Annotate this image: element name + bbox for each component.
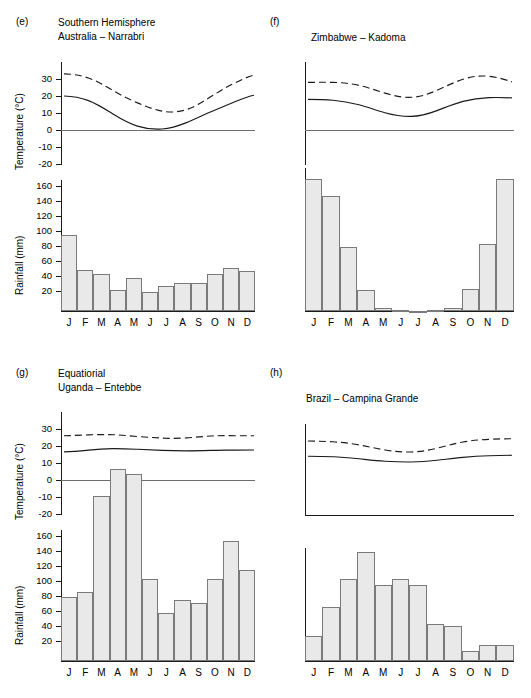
bar-rainfall bbox=[375, 308, 392, 311]
bar-rainfall bbox=[158, 613, 174, 661]
rain-tick-80: 80 bbox=[30, 241, 52, 251]
month-label: O bbox=[207, 317, 223, 328]
month-label: J bbox=[409, 317, 426, 328]
bar-rainfall bbox=[340, 247, 357, 312]
month-label: M bbox=[375, 667, 392, 678]
month-label: N bbox=[223, 317, 239, 328]
bar-rainfall bbox=[77, 270, 93, 311]
bar-rainfall bbox=[191, 283, 207, 311]
panel-e-rain-baseline bbox=[61, 311, 255, 312]
curve-max-temperature bbox=[64, 435, 254, 439]
month-label: A bbox=[357, 317, 374, 328]
rain-tick-60: 60 bbox=[30, 256, 52, 266]
month-label: O bbox=[462, 667, 479, 678]
rain-tick-20: 20 bbox=[30, 286, 52, 296]
rain-tick-160: 160 bbox=[30, 531, 52, 541]
month-label: S bbox=[444, 667, 461, 678]
month-label: F bbox=[322, 317, 339, 328]
rain-tick-160: 160 bbox=[30, 181, 52, 191]
month-label: M bbox=[93, 667, 109, 678]
bar-rainfall bbox=[93, 496, 109, 661]
rain-tick-120: 120 bbox=[30, 211, 52, 221]
bar-rainfall bbox=[191, 603, 207, 662]
bar-rainfall bbox=[61, 597, 77, 661]
bar-rainfall bbox=[340, 579, 357, 662]
rain-tick-120: 120 bbox=[30, 561, 52, 571]
rain-tick-60: 60 bbox=[30, 606, 52, 616]
month-label: S bbox=[191, 317, 207, 328]
month-label: J bbox=[61, 317, 77, 328]
month-label: N bbox=[479, 667, 496, 678]
month-label: N bbox=[479, 317, 496, 328]
month-label: J bbox=[409, 667, 426, 678]
panel-h: (h) Brazil – Campina Grande J F M A M J … bbox=[266, 348, 531, 698]
bar-rainfall bbox=[427, 624, 444, 662]
panel-e-rain-axis-label: Rainfall (mm) bbox=[14, 236, 25, 295]
month-label: J bbox=[305, 667, 322, 678]
bar-rainfall bbox=[462, 651, 479, 662]
month-label: A bbox=[174, 317, 190, 328]
rain-tick-20: 20 bbox=[30, 636, 52, 646]
bar-rainfall bbox=[158, 286, 174, 312]
rain-tick-40: 40 bbox=[30, 271, 52, 281]
bar-rainfall bbox=[462, 289, 479, 311]
bar-rainfall bbox=[392, 579, 409, 662]
month-label: M bbox=[340, 317, 357, 328]
bar-rainfall bbox=[174, 600, 190, 662]
month-label: O bbox=[207, 667, 223, 678]
month-label: A bbox=[174, 667, 190, 678]
rain-tick-140: 140 bbox=[30, 546, 52, 556]
bar-rainfall bbox=[126, 278, 142, 311]
month-label: A bbox=[427, 667, 444, 678]
bar-rainfall bbox=[496, 179, 513, 311]
panel-h-rain-baseline bbox=[305, 661, 514, 662]
bar-rainfall bbox=[77, 592, 93, 661]
month-label: M bbox=[93, 317, 109, 328]
bar-rainfall bbox=[444, 626, 461, 661]
bar-rainfall bbox=[409, 585, 426, 662]
bar-rainfall bbox=[142, 579, 158, 661]
month-label: A bbox=[110, 317, 126, 328]
bar-rainfall bbox=[207, 579, 223, 661]
bar-rainfall bbox=[239, 271, 255, 312]
month-label: M bbox=[375, 317, 392, 328]
bar-rainfall bbox=[126, 474, 142, 662]
bar-rainfall bbox=[427, 310, 444, 312]
bar-rainfall bbox=[444, 308, 461, 311]
month-label: O bbox=[462, 317, 479, 328]
month-label: S bbox=[191, 667, 207, 678]
curve-max-temperature bbox=[308, 439, 512, 452]
month-label: A bbox=[357, 667, 374, 678]
bar-rainfall bbox=[223, 268, 239, 311]
curve-min-temperature bbox=[64, 95, 254, 129]
month-label: J bbox=[142, 667, 158, 678]
bar-rainfall bbox=[479, 244, 496, 311]
month-label: D bbox=[239, 317, 255, 328]
month-label: J bbox=[158, 317, 174, 328]
bar-rainfall bbox=[207, 274, 223, 312]
month-label: J bbox=[392, 317, 409, 328]
bar-rainfall bbox=[357, 290, 374, 311]
bar-rainfall bbox=[357, 552, 374, 662]
month-label: M bbox=[126, 317, 142, 328]
month-label: F bbox=[322, 667, 339, 678]
bar-rainfall bbox=[322, 607, 339, 661]
month-label: S bbox=[444, 317, 461, 328]
rain-tick-140: 140 bbox=[30, 196, 52, 206]
bar-rainfall bbox=[305, 179, 322, 311]
bar-rainfall bbox=[479, 645, 496, 661]
rain-tick-100: 100 bbox=[30, 226, 52, 236]
rain-tick-40: 40 bbox=[30, 621, 52, 631]
panel-g-rain-axis-label: Rainfall (mm) bbox=[14, 586, 25, 645]
bar-rainfall bbox=[496, 645, 513, 661]
month-label: D bbox=[239, 667, 255, 678]
bar-rainfall bbox=[322, 196, 339, 311]
bar-rainfall bbox=[110, 290, 126, 311]
climate-figure: (e) Southern Hemisphere Australia – Narr… bbox=[0, 0, 531, 698]
month-label: M bbox=[340, 667, 357, 678]
month-label: M bbox=[126, 667, 142, 678]
bar-rainfall bbox=[61, 235, 77, 312]
bar-rainfall bbox=[174, 283, 190, 311]
curve-min-temperature bbox=[308, 97, 512, 116]
month-label: J bbox=[61, 667, 77, 678]
